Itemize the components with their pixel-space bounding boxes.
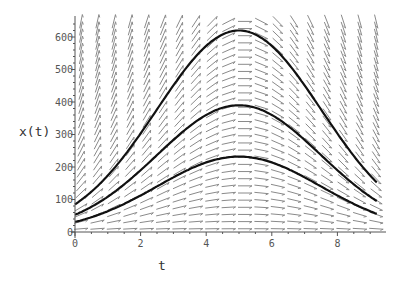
direction-arrow-icon: [356, 123, 363, 135]
direction-arrow-icon: [79, 115, 84, 128]
direction-arrow-icon: [127, 108, 133, 121]
direction-arrow-icon: [127, 123, 134, 135]
direction-arrow-icon: [144, 79, 150, 92]
direction-arrow-icon: [357, 79, 362, 92]
direction-arrow-icon: [238, 229, 252, 230]
direction-arrow-icon: [336, 228, 350, 230]
direction-arrow-icon: [107, 220, 121, 223]
direction-arrow-icon: [173, 183, 186, 189]
direction-arrow-icon: [156, 198, 169, 203]
direction-arrow-icon: [205, 170, 218, 174]
direction-arrow-icon: [324, 51, 330, 64]
direction-arrow-icon: [374, 79, 379, 92]
direction-arrow-icon: [271, 155, 284, 160]
direction-arrow-icon: [222, 112, 235, 116]
direction-arrow-icon: [110, 137, 117, 149]
direction-arrow-icon: [111, 79, 116, 92]
direction-arrow-icon: [222, 18, 234, 24]
direction-arrow-icon: [357, 72, 362, 85]
direction-arrow-icon: [94, 137, 100, 149]
direction-arrow-icon: [205, 229, 219, 230]
direction-arrow-icon: [95, 122, 101, 135]
direction-arrow-icon: [156, 213, 170, 216]
direction-arrow-icon: [288, 139, 300, 147]
direction-arrow-icon: [222, 171, 236, 173]
direction-arrow-icon: [222, 47, 235, 53]
direction-arrow-icon: [353, 228, 367, 230]
direction-arrow-icon: [222, 62, 235, 67]
direction-arrow-icon: [174, 161, 186, 169]
y-tick-label: 200: [55, 162, 73, 173]
direction-arrow-icon: [238, 136, 252, 137]
direction-arrow-icon: [287, 199, 301, 203]
direction-arrow-icon: [254, 178, 268, 181]
direction-arrow-icon: [255, 120, 269, 124]
direction-arrow-icon: [324, 36, 330, 49]
direction-arrow-icon: [254, 192, 268, 195]
direction-arrow-icon: [95, 86, 100, 99]
direction-arrow-icon: [222, 214, 236, 216]
direction-arrow-icon: [206, 133, 219, 139]
direction-arrow-icon: [336, 221, 350, 224]
direction-arrow-icon: [144, 51, 149, 64]
direction-arrow-icon: [172, 229, 186, 231]
direction-arrow-icon: [176, 15, 182, 28]
direction-arrow-icon: [238, 64, 252, 65]
direction-arrow-icon: [341, 43, 346, 56]
direction-arrow-icon: [337, 213, 351, 217]
direction-arrow-icon: [160, 29, 166, 42]
direction-arrow-icon: [189, 214, 203, 216]
direction-arrow-icon: [173, 198, 186, 202]
direction-arrow-icon: [205, 184, 219, 187]
direction-arrow-icon: [353, 220, 367, 223]
direction-arrow-icon: [374, 36, 378, 50]
direction-arrow-icon: [307, 58, 314, 70]
direction-arrow-icon: [222, 229, 236, 230]
direction-arrow-icon: [205, 192, 219, 195]
direction-arrow-icon: [288, 176, 301, 181]
direction-arrow-icon: [144, 65, 150, 78]
direction-arrow-icon: [238, 164, 252, 165]
direction-arrow-icon: [340, 79, 346, 92]
direction-arrow-icon: [271, 170, 284, 175]
direction-arrow-icon: [206, 96, 218, 104]
direction-arrow-icon: [238, 143, 252, 144]
direction-arrow-icon: [95, 108, 100, 121]
direction-arrow-icon: [206, 140, 219, 146]
direction-arrow-icon: [222, 127, 236, 130]
direction-arrow-icon: [341, 36, 346, 49]
direction-arrow-icon: [324, 44, 330, 57]
direction-arrow-icon: [255, 149, 269, 153]
direction-arrow-icon: [304, 198, 317, 203]
direction-arrow-icon: [255, 134, 269, 138]
y-tick-label: 400: [55, 97, 73, 108]
direction-arrow-icon: [307, 51, 314, 63]
direction-arrow-icon: [176, 22, 182, 35]
direction-arrow-icon: [141, 174, 152, 183]
direction-arrow-icon: [272, 89, 284, 97]
direction-arrow-icon: [74, 228, 88, 230]
direction-arrow-icon: [189, 221, 203, 223]
direction-arrow-icon: [222, 200, 236, 202]
x-tick-label: 6: [269, 238, 275, 249]
direction-arrow-icon: [287, 214, 301, 217]
direction-arrow-icon: [141, 182, 153, 190]
direction-arrow-icon: [340, 116, 347, 128]
direction-arrow-icon: [323, 87, 330, 99]
direction-arrow-icon: [374, 58, 378, 71]
direction-arrow-icon: [238, 21, 252, 22]
direction-arrow-icon: [157, 167, 168, 175]
direction-arrow-icon: [238, 222, 252, 223]
direction-arrow-icon: [238, 114, 252, 115]
direction-arrow-icon: [174, 146, 185, 155]
direction-arrow-icon: [111, 130, 118, 142]
direction-arrow-icon: [254, 221, 268, 223]
direction-arrow-icon: [255, 83, 268, 88]
direction-arrow-icon: [206, 89, 218, 97]
direction-arrow-icon: [320, 205, 333, 210]
direction-arrow-icon: [272, 104, 284, 111]
direction-arrow-icon: [255, 18, 267, 24]
direction-arrow-icon: [108, 196, 120, 203]
direction-arrow-icon: [373, 115, 379, 128]
x-tick-label: 4: [203, 238, 209, 249]
